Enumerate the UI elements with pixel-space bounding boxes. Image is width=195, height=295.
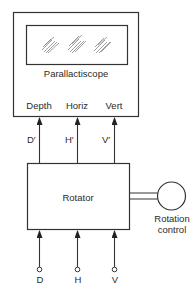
signal-label-h-prime: H′ xyxy=(65,135,74,145)
input-terminals xyxy=(37,267,117,272)
terminal-d-icon xyxy=(37,267,42,272)
input-label-horiz: Horiz xyxy=(66,101,88,111)
rotator-title: Rotator xyxy=(62,193,93,203)
terminal-v-icon xyxy=(112,267,117,272)
terminal-label-d: D xyxy=(37,275,44,285)
input-label-vert: Vert xyxy=(106,101,123,111)
terminal-label-h: H xyxy=(75,275,82,285)
signal-label-v-prime: V′ xyxy=(102,135,110,145)
rotation-control-knob[interactable] xyxy=(158,182,186,210)
diagram-canvas xyxy=(0,0,195,295)
terminal-label-v: V xyxy=(112,275,118,285)
screen-image-hatch-icon xyxy=(42,35,111,53)
rotation-shaft xyxy=(130,193,158,199)
signal-label-d-prime: D′ xyxy=(27,135,36,145)
rotation-control-label-line2: control xyxy=(158,225,187,235)
terminal-h-icon xyxy=(75,267,80,272)
input-arrows xyxy=(40,231,115,267)
parallactiscope-title: Parallactiscope xyxy=(44,69,108,79)
rotation-control-label-line1: Rotation xyxy=(154,214,189,224)
input-label-depth: Depth xyxy=(26,101,51,111)
